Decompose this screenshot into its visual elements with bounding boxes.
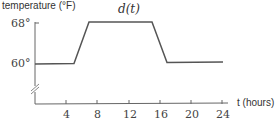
function-label: d(t): [118, 2, 140, 16]
x-tick-label-4: 4: [63, 108, 70, 121]
x-tick-label-16: 16: [154, 108, 168, 121]
y-tick-label-68: 68°: [11, 17, 31, 30]
x-axis-label: t (hours): [237, 97, 274, 108]
y-axis-label: temperature (°F): [2, 0, 75, 11]
x-tick-label-20: 20: [185, 108, 199, 121]
x-axis: [35, 103, 228, 104]
x-tick-label-12: 12: [123, 108, 137, 121]
x-tick-label-24: 24: [216, 108, 230, 121]
series-line-d: [35, 22, 223, 64]
x-tick-label-8: 8: [94, 108, 101, 121]
y-tick-label-60: 60°: [11, 57, 31, 70]
temperature-chart: temperature (°F) d(t) 68° 60° 4 8 12 16 …: [0, 0, 276, 129]
